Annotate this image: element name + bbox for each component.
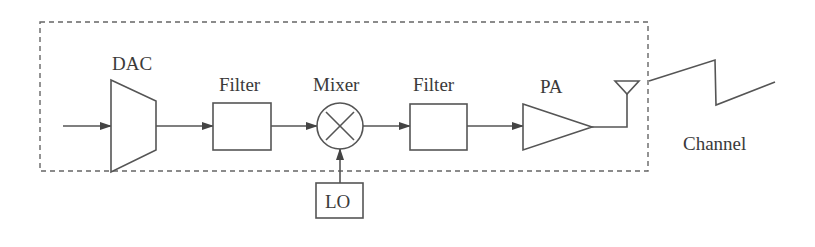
pa-label: PA [540,76,563,97]
filter-2-block [410,104,467,150]
channel-label: Channel [683,133,746,154]
channel-path [649,60,775,105]
dac-label: DAC [112,53,152,74]
antenna-icon [615,81,639,94]
mixer-label: Mixer [313,74,360,95]
filter-2-label: Filter [413,74,455,95]
pa-to-antenna-line [592,93,627,127]
filter-1-label: Filter [219,74,261,95]
dac-block [111,80,156,172]
lo-label: LO [325,191,350,212]
filter-1-block [213,103,271,150]
transmitter-diagram: DAC Filter Mixer LO Filter PA Channel [0,0,815,247]
pa-block [523,104,592,150]
